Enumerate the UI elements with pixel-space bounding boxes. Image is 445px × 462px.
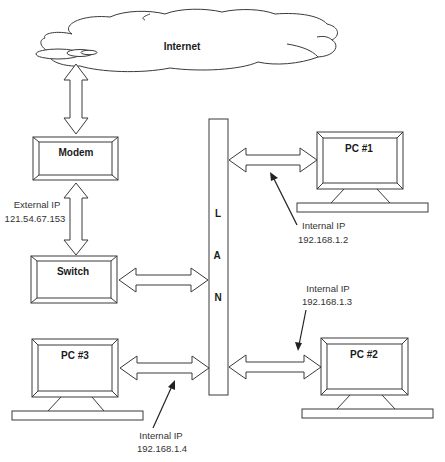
lan-letter-n: N <box>214 292 221 303</box>
pc-3-ip-pointer <box>153 386 172 428</box>
pc-1-ip-caption: Internal IP <box>302 220 345 231</box>
internet-modem-arrow <box>64 64 88 134</box>
pc-3-ip-address: 192.168.1.4 <box>137 443 187 454</box>
pc-2-ip-caption: Internal IP <box>306 283 349 294</box>
pc-3-label: PC #3 <box>61 350 89 361</box>
internet-cloud: Internet <box>36 9 337 71</box>
lan-backbone: L A N <box>209 119 228 395</box>
switch-box: Switch <box>31 256 117 303</box>
pc-1-ip-pointer <box>273 177 297 225</box>
pc-3-ip-caption: Internal IP <box>139 430 182 441</box>
network-diagram: Internet Modem External IP 121.54.67.153… <box>0 0 445 462</box>
pc-1-ip-pointer-head <box>270 172 278 181</box>
pc-3-ip-pointer-head <box>168 380 175 390</box>
pc-2-base <box>302 409 433 418</box>
modem-link-ellipse-inner <box>81 50 97 54</box>
pc-1: PC #1 <box>297 132 428 212</box>
pc-2-ip-address: 192.168.1.3 <box>302 296 352 307</box>
lan-letter-l: L <box>215 208 221 219</box>
modem-label: Modem <box>59 147 94 158</box>
modem-box: Modem <box>33 137 118 180</box>
pc-2-ip-pointer-head <box>295 342 302 351</box>
internet-label: Internet <box>164 41 201 52</box>
pc-1-label: PC #1 <box>345 143 373 154</box>
external-ip-address: 121.54.67.153 <box>5 213 66 224</box>
pc-3-base <box>12 411 143 420</box>
pc-2: PC #2 <box>302 338 433 418</box>
lan-pc1-arrow <box>229 148 317 172</box>
lan-pc2-arrow <box>229 355 321 379</box>
pc-2-label: PC #2 <box>350 349 378 360</box>
pc-2-ip-pointer <box>299 310 306 345</box>
switch-label: Switch <box>57 266 89 277</box>
lan-letter-a: A <box>213 250 220 261</box>
switch-lan-arrow <box>119 268 208 292</box>
pc-3: PC #3 <box>12 339 143 420</box>
pc3-lan-arrow <box>120 356 209 380</box>
modem-switch-arrow <box>64 183 88 255</box>
pc-1-ip-address: 192.168.1.2 <box>298 234 348 245</box>
pc-1-base <box>297 203 428 212</box>
external-ip-caption: External IP <box>14 199 60 210</box>
